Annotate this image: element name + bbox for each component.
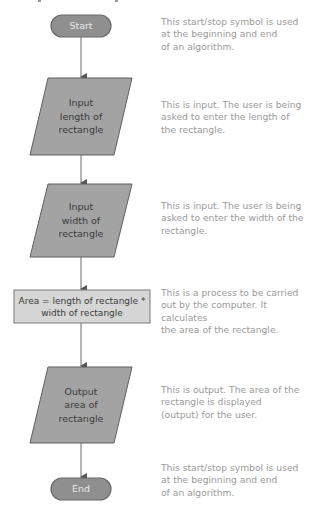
node-label-line: rectangle bbox=[59, 124, 104, 135]
description-process-area: This is a process to be carried out by t… bbox=[161, 287, 313, 336]
node-label-line: width of rectangle bbox=[41, 308, 123, 318]
node-label-line: End bbox=[72, 483, 90, 494]
node-end: End bbox=[51, 478, 111, 500]
description-input-width: This is input. The user is being asked t… bbox=[161, 200, 313, 237]
node-input-length: Inputlength ofrectangle bbox=[30, 78, 132, 155]
node-process-area: Area = length of rectangle *width of rec… bbox=[14, 290, 150, 323]
node-label-line: rectangle bbox=[59, 228, 104, 239]
node-input-width: Inputwidth ofrectangle bbox=[30, 184, 132, 257]
node-label-line: area of bbox=[64, 399, 98, 410]
description-input-length: This is input. The user is being asked t… bbox=[161, 99, 313, 136]
node-label-line: Output bbox=[65, 386, 98, 397]
flowchart: StartInputlength ofrectangleInputwidth o… bbox=[0, 0, 316, 517]
description-end: This start/stop symbol is used at the be… bbox=[161, 462, 313, 499]
node-label-line: Input bbox=[69, 201, 94, 212]
node-start: Start bbox=[51, 15, 111, 37]
node-label-line: rectangle bbox=[59, 413, 104, 424]
node-label-line: length of bbox=[60, 111, 103, 122]
node-label-line: Start bbox=[69, 20, 92, 31]
node-label-line: Area = length of rectangle * bbox=[19, 296, 146, 306]
description-output-area: This is output. The area of the rectangl… bbox=[161, 384, 313, 421]
description-start: This start/stop symbol is used at the be… bbox=[161, 16, 313, 53]
node-label-line: width of bbox=[62, 215, 101, 226]
node-output-area: Outputarea ofrectangle bbox=[30, 367, 132, 443]
node-label-line: Input bbox=[69, 97, 94, 108]
